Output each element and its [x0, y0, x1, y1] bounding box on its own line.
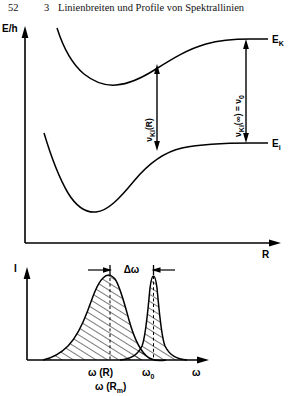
y-axis-label: E/h: [2, 23, 18, 34]
tick-label-omega-zero: ω0: [142, 367, 154, 380]
delta-omega-label: Δω: [124, 264, 140, 275]
level-label-Ei: Ei: [272, 138, 281, 151]
x-axis-label: ω: [192, 367, 201, 378]
transition-label-at-infinity: νKi(∞) = ν0: [233, 95, 245, 137]
x-axis-R: [25, 239, 281, 246]
upper-state-potential-curve: [57, 28, 250, 85]
lower-diagram: I ω: [0, 258, 298, 396]
y-axis-label: I: [14, 263, 17, 274]
tick-label-omega-Rm: ω (Rm): [95, 381, 126, 394]
lower-state-potential-curve: [44, 133, 250, 212]
chapter-title: Linienbreiten und Profile von Spektralli…: [58, 2, 244, 13]
figure-page: 52 3 Linienbreiten und Profile von Spekt…: [0, 0, 298, 396]
tick-label-omega-R: ω (R): [88, 367, 113, 378]
chapter-number: 3: [44, 2, 49, 13]
running-head: 52 3 Linienbreiten und Profile von Spekt…: [0, 2, 298, 18]
level-label-EK: EK: [272, 34, 284, 47]
transition-label-at-R: νKi(R): [144, 118, 156, 142]
y-axis-Eh: [22, 26, 29, 243]
page-number: 52: [8, 2, 19, 13]
y-axis-I: [24, 267, 31, 360]
upper-diagram: E/h R EK Ei: [0, 20, 298, 260]
